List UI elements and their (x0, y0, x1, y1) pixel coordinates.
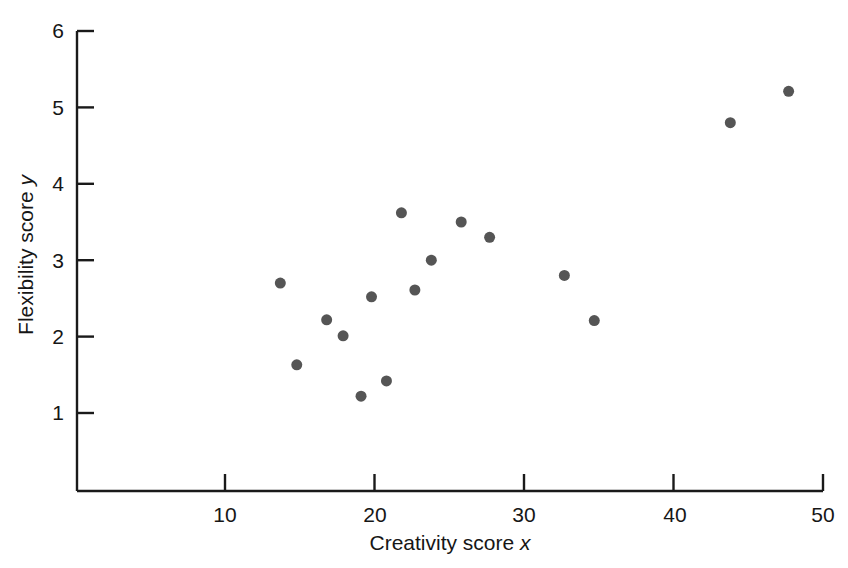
data-point-13 (589, 315, 600, 326)
scatter-chart: 6 5 4 3 2 1 10 20 30 40 50 Creativity sc… (0, 0, 848, 568)
y-tick-label-2: 2 (52, 325, 64, 349)
data-point-8 (409, 285, 420, 296)
y-axis-title: Flexibility score y (14, 175, 38, 335)
y-tick-label-3: 3 (52, 249, 64, 273)
data-point-7 (396, 207, 407, 218)
y-tick-label-5: 5 (52, 96, 64, 120)
x-axis-title-variable: x (520, 531, 531, 554)
y-tick-label-4: 4 (52, 172, 64, 196)
data-point-1 (291, 359, 302, 370)
x-axis-title: Creativity score x (369, 531, 530, 555)
data-point-14 (725, 117, 736, 128)
data-point-3 (338, 330, 349, 341)
data-point-10 (456, 217, 467, 228)
y-axis-title-text: Flexibility score (14, 191, 37, 335)
data-point-0 (275, 278, 286, 289)
y-tick-label-6: 6 (52, 19, 64, 43)
x-axis-title-text: Creativity score (369, 531, 514, 554)
x-tick-label-40: 40 (663, 503, 687, 527)
data-point-4 (356, 391, 367, 402)
data-point-2 (321, 314, 332, 325)
x-tick-label-30: 30 (512, 503, 536, 527)
y-tick-label-1: 1 (52, 401, 64, 425)
data-point-11 (484, 232, 495, 243)
data-point-5 (366, 291, 377, 302)
x-tick-label-50: 50 (811, 503, 835, 527)
y-axis-title-variable: y (14, 175, 37, 186)
data-point-15 (783, 86, 794, 97)
data-point-12 (559, 270, 570, 281)
plot-area (0, 0, 848, 568)
data-point-9 (426, 255, 437, 266)
x-tick-label-10: 10 (213, 503, 237, 527)
data-point-6 (381, 375, 392, 386)
x-tick-label-20: 20 (363, 503, 387, 527)
